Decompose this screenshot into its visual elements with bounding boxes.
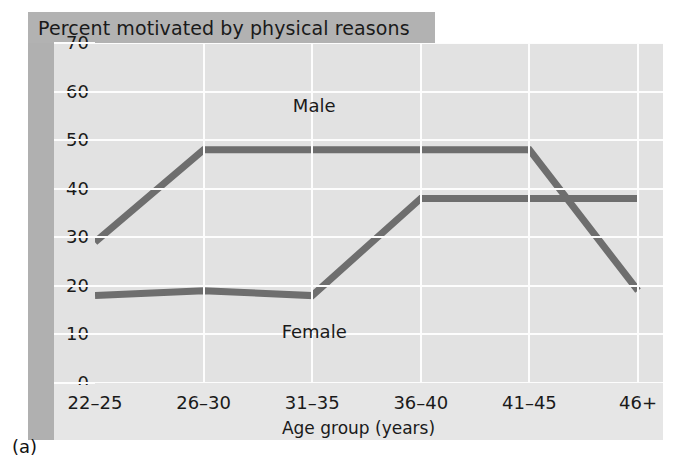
x-axis-tick-label: 46+ <box>619 394 657 412</box>
x-axis-tick-label: 22–25 <box>68 394 123 412</box>
x-axis-title: Age group (years) <box>282 420 435 437</box>
gridline-vertical <box>420 43 422 383</box>
gridline-horizontal <box>54 91 95 93</box>
x-axis-tick-label: 26–30 <box>176 394 231 412</box>
gridline-horizontal <box>95 285 663 287</box>
gridline-horizontal <box>54 42 95 44</box>
gridline-horizontal <box>95 139 663 141</box>
gridline-horizontal <box>54 382 95 384</box>
gridline-horizontal <box>95 236 663 238</box>
gridline-horizontal <box>54 188 95 190</box>
series-label-male: Male <box>293 97 336 115</box>
gridline-vertical <box>637 43 639 383</box>
x-axis-tick-label: 41–45 <box>502 394 557 412</box>
gridline-horizontal <box>54 333 95 335</box>
y-axis: 010203040506070 <box>54 43 95 383</box>
series-line-female <box>95 198 638 295</box>
gridline-vertical <box>203 43 205 383</box>
chart-title-band: Percent motivated by physical reasons <box>28 12 435 43</box>
x-axis-tick-label: 36–40 <box>393 394 448 412</box>
gridline-horizontal <box>95 91 663 93</box>
gridline-horizontal <box>95 333 663 335</box>
gridline-horizontal <box>95 382 663 383</box>
x-axis: Age group (years) 22–2526–3031–3536–4041… <box>54 385 663 440</box>
gridline-horizontal <box>95 43 663 44</box>
gridline-horizontal <box>54 236 95 238</box>
x-axis-tick-label: 31–35 <box>285 394 340 412</box>
series-lines <box>95 43 663 383</box>
gridline-horizontal <box>54 139 95 141</box>
gridline-vertical <box>528 43 530 383</box>
left-gray-band <box>28 43 54 440</box>
series-line-male <box>95 150 638 291</box>
plot-area: MaleFemale <box>95 43 663 383</box>
series-label-female: Female <box>282 323 347 341</box>
gridline-horizontal <box>95 188 663 190</box>
figure-caption: (a) <box>12 438 37 456</box>
chart-figure: Percent motivated by physical reasons 01… <box>0 0 673 475</box>
gridline-horizontal <box>54 285 95 287</box>
